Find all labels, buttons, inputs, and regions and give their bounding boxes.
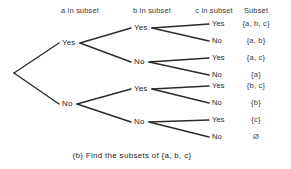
figure-caption: (b) Find the subsets of {a, b, c} (73, 151, 192, 160)
tree-edge (149, 58, 209, 62)
column-header-subset: Subset (244, 6, 268, 15)
subset-value-3: {a, c} (247, 53, 265, 62)
subset-value-5: {b, c} (247, 81, 265, 90)
subset-value-6: {b} (251, 98, 261, 107)
subset-value-1: {a, b, c} (242, 19, 269, 28)
tree-edge (14, 73, 59, 104)
node-a-yes: Yes (62, 38, 75, 47)
node-b-no-2: No (134, 117, 144, 126)
tree-edge (14, 43, 59, 73)
subset-value-2: {a, b} (247, 36, 266, 45)
node-c-leaf-1: Yes (212, 19, 225, 28)
subset-value-8: Ø (253, 132, 259, 141)
node-c-leaf-3: Yes (212, 53, 225, 62)
tree-edge (77, 104, 131, 122)
tree-edge (152, 24, 209, 28)
tree-edge (149, 120, 209, 122)
node-c-leaf-6: No (212, 98, 222, 107)
tree-edge (80, 43, 131, 62)
node-c-leaf-4: No (212, 70, 222, 79)
subset-tree-figure: a in subset b in subset c in subset Subs… (0, 0, 291, 169)
tree-edge (149, 62, 209, 75)
tree-edge (80, 28, 131, 43)
subset-value-7: {c} (251, 115, 260, 124)
column-header-c: c in subset (195, 6, 233, 15)
tree-edge (152, 89, 209, 103)
tree-edge (149, 122, 209, 137)
subset-value-4: {a} (251, 70, 261, 79)
column-header-a: a in subset (61, 6, 99, 15)
column-header-b: b in subset (133, 6, 171, 15)
tree-edge (152, 28, 209, 41)
node-a-no: No (62, 99, 72, 108)
node-b-yes-2: Yes (134, 84, 147, 93)
node-c-leaf-7: Yes (212, 115, 225, 124)
tree-edge (77, 89, 131, 104)
node-b-yes-1: Yes (134, 23, 147, 32)
node-b-no-1: No (134, 57, 144, 66)
node-c-leaf-2: No (212, 36, 222, 45)
tree-edge (152, 86, 209, 89)
node-c-leaf-8: No (212, 132, 222, 141)
node-c-leaf-5: Yes (212, 81, 225, 90)
